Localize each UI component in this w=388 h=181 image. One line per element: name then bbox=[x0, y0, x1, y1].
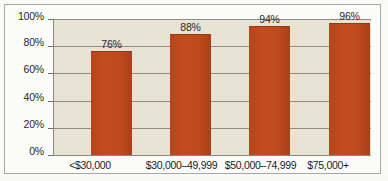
ytick-label-100: 100% bbox=[4, 11, 44, 22]
ytick-label-80: 80% bbox=[4, 37, 44, 48]
ytick-mark-20 bbox=[48, 128, 53, 129]
chart-frame: 100% 80% 60% 40% 20% 0% 76% bbox=[4, 4, 381, 174]
ytick-label-0: 0% bbox=[4, 146, 44, 157]
bar-75000-plus[interactable] bbox=[329, 23, 370, 155]
bar-under-30000[interactable] bbox=[91, 51, 132, 155]
ytick-mark-60 bbox=[48, 73, 53, 74]
ytick-mark-80 bbox=[48, 46, 53, 47]
ytick-mark-100 bbox=[48, 19, 53, 20]
bar-value-75000-plus: 96% bbox=[329, 11, 370, 22]
ytick-mark-40 bbox=[48, 101, 53, 102]
category-label-under-30000: <$30,000 bbox=[50, 160, 130, 171]
bar-chart-figure: 100% 80% 60% 40% 20% 0% 76% bbox=[0, 0, 388, 181]
bar-30000-49999[interactable] bbox=[170, 34, 211, 155]
category-label-75000-plus: $75,000+ bbox=[288, 160, 368, 171]
bar-value-under-30000: 76% bbox=[91, 39, 132, 50]
bar-value-30000-49999: 88% bbox=[170, 22, 211, 33]
plot-area: 76% 88% 94% 96% bbox=[53, 19, 371, 156]
gridline-100 bbox=[54, 19, 371, 20]
ytick-label-20: 20% bbox=[4, 119, 44, 130]
bar-50000-74999[interactable] bbox=[249, 26, 290, 155]
bar-value-50000-74999: 94% bbox=[249, 14, 290, 25]
ytick-label-60: 60% bbox=[4, 64, 44, 75]
ytick-mark-0 bbox=[48, 155, 53, 156]
ytick-label-40: 40% bbox=[4, 92, 44, 103]
